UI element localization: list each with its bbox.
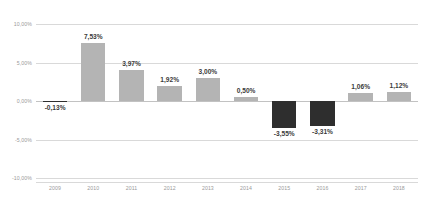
bar[interactable] [157,86,181,101]
gridline: -10,00% [36,178,418,179]
bar-slot: -0,13% [36,24,74,178]
bar-value-label: 7,53% [84,33,103,40]
bar[interactable] [348,93,372,101]
bar-value-label: -3,55% [274,130,295,137]
bar-slot: 1,12% [380,24,418,178]
bar-value-label: 1,06% [351,83,370,90]
x-axis-line [36,182,418,183]
bar[interactable] [119,70,143,101]
x-axis-tick-label: 2016 [317,185,329,191]
x-axis-tick-label: 2014 [240,185,252,191]
bar[interactable] [310,101,334,126]
y-axis-tick-label: 0,00% [17,98,32,104]
bar-value-label: 3,00% [199,68,218,75]
bar-value-label: 0,50% [237,87,256,94]
bar-slot: 7,53% [74,24,112,178]
bar-slot: 1,92% [151,24,189,178]
y-axis-tick-label: 10,00% [14,21,32,27]
bar-slot: 3,97% [112,24,150,178]
x-axis-tick-label: 2013 [202,185,214,191]
x-axis-tick-label: 2012 [164,185,176,191]
bar[interactable] [43,101,67,102]
x-axis-tick-label: 2018 [393,185,405,191]
bar-slot: -3,31% [303,24,341,178]
x-axis-tick-label: 2011 [126,185,138,191]
y-axis-tick-label: -5,00% [15,137,32,143]
y-axis-tick-label: -10,00% [12,175,32,181]
x-axis-tick-label: 2009 [49,185,61,191]
bar-slot: 0,50% [227,24,265,178]
bar-value-label: 1,92% [160,76,179,83]
y-axis-tick-label: 5,00% [17,60,32,66]
bar-slot: 1,06% [342,24,380,178]
bar-slot: -3,55% [265,24,303,178]
bar[interactable] [272,101,296,128]
x-axis-tick-label: 2015 [278,185,290,191]
plot-area: 10,00%5,00%0,00%-5,00%-10,00% -0,13%7,53… [36,24,418,178]
bar[interactable] [387,92,411,101]
bar-value-label: -3,31% [312,128,333,135]
x-axis: 2009201020112012201320142015201620172018 [36,182,418,196]
bar-value-label: 3,97% [122,60,141,67]
bar[interactable] [81,43,105,101]
bar-value-label: 1,12% [390,82,409,89]
bar-chart: 10,00%5,00%0,00%-5,00%-10,00% -0,13%7,53… [0,0,424,206]
bar-value-label: -0,13% [45,104,66,111]
bar[interactable] [234,97,258,101]
bar-slot: 3,00% [189,24,227,178]
x-axis-tick-label: 2010 [87,185,99,191]
x-axis-tick-label: 2017 [355,185,367,191]
bar[interactable] [196,78,220,101]
bar-series: -0,13%7,53%3,97%1,92%3,00%0,50%-3,55%-3,… [36,24,418,178]
